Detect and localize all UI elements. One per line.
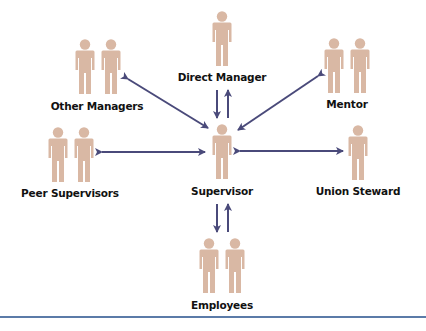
mentor-people-icon [325, 38, 370, 93]
peer-supervisors-people-icon [49, 127, 94, 182]
other-managers-people-icon [76, 39, 121, 94]
union-steward-label: Union Steward [316, 185, 401, 197]
direct-manager-label: Direct Manager [178, 71, 267, 83]
direct-manager-person-icon [213, 11, 232, 66]
bottom-divider [0, 316, 426, 318]
relationship-diagram [0, 0, 426, 331]
peer-supervisors-label: Peer Supervisors [21, 187, 119, 199]
union-steward-person-icon [349, 125, 368, 180]
employees-label: Employees [191, 299, 253, 311]
other-managers-label: Other Managers [51, 100, 144, 112]
mentor-label: Mentor [326, 98, 367, 110]
employees-people-icon [200, 238, 245, 293]
arrow-mentor [238, 76, 318, 130]
supervisor-person-icon [213, 124, 232, 179]
supervisor-label: Supervisor [191, 185, 253, 197]
